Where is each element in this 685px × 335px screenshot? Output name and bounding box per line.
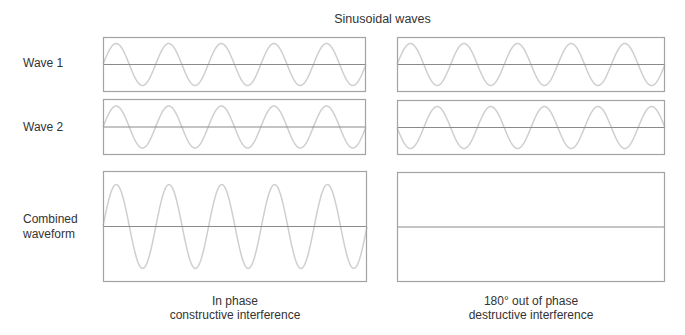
caption-in-phase: In phase constructive interference [135, 294, 335, 322]
panel-out-of-phase-wave-2 [397, 100, 665, 155]
panel-in-phase-combined [103, 171, 367, 282]
caption-line-1: In phase [135, 294, 335, 308]
row-label-combined-waveform: Combined waveform [23, 212, 78, 242]
caption-line-1: 180° out of phase [431, 294, 631, 308]
caption-out-of-phase: 180° out of phase destructive interferen… [431, 294, 631, 322]
diagram-title: Sinusoidal waves [300, 12, 465, 26]
panel-in-phase-wave-2 [103, 99, 366, 155]
caption-line-2: constructive interference [135, 308, 335, 322]
panel-in-phase-wave-1 [103, 37, 366, 92]
row-label-line-1: Combined [23, 212, 78, 227]
panel-out-of-phase-wave-1 [397, 37, 665, 92]
row-label-wave-1: Wave 1 [23, 56, 63, 71]
panel-out-of-phase-combined [397, 172, 665, 282]
caption-line-2: destructive interference [431, 308, 631, 322]
row-label-line-2: waveform [23, 227, 78, 242]
row-label-wave-2: Wave 2 [23, 120, 63, 135]
